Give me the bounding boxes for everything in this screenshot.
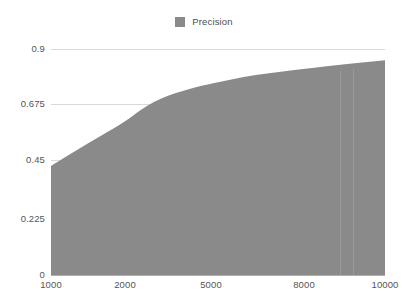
x-tick-label: 8000 (293, 279, 315, 291)
x-tick-label: 10000 (372, 279, 399, 291)
y-axis-labels: 0.9 0.675 0.45 0.225 0 (0, 0, 45, 306)
chart-legend: Precision (0, 13, 408, 31)
x-axis-labels: 1000 2000 5000 8000 10000 (0, 279, 408, 293)
x-tick-label: 5000 (200, 279, 222, 291)
series-area-precision (51, 49, 385, 275)
legend-item-label: Precision (192, 17, 232, 27)
y-tick-label: 0.225 (1, 214, 45, 224)
x-tick-label: 1000 (40, 279, 62, 291)
x-axis-line (51, 275, 385, 276)
plot-area (51, 49, 385, 275)
y-tick-label: 0.9 (1, 44, 45, 54)
legend-swatch-icon (175, 17, 185, 27)
area-fill (51, 60, 385, 275)
y-tick-label: 0.675 (1, 99, 45, 109)
chart-container: Precision 0.9 0.675 0.45 0.225 0 (0, 0, 408, 306)
legend-item-precision[interactable]: Precision (175, 17, 232, 27)
y-tick-label: 0.45 (1, 155, 45, 165)
x-tick-label: 2000 (114, 279, 136, 291)
